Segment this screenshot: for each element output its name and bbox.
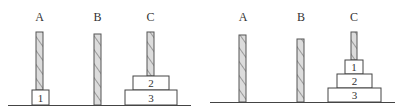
- svg-text:3: 3: [148, 92, 154, 104]
- peg-b: [297, 39, 304, 102]
- peg-c: [351, 32, 357, 60]
- peg-label-c: C: [350, 10, 358, 24]
- svg-text:1: 1: [38, 92, 44, 104]
- peg-label-b: B: [93, 10, 101, 24]
- peg-label-a: A: [35, 10, 44, 24]
- peg-label-b: B: [297, 10, 305, 24]
- peg-a: [36, 32, 43, 90]
- disk-3: 3: [125, 90, 177, 105]
- peg-b: [94, 34, 101, 105]
- peg-label-a: A: [239, 10, 248, 24]
- svg-text:2: 2: [148, 77, 154, 89]
- disk-3: 3: [328, 88, 381, 102]
- disk-2: 2: [133, 76, 169, 90]
- svg-text:3: 3: [352, 89, 358, 101]
- svg-text:2: 2: [352, 75, 358, 87]
- disk-1: 1: [345, 60, 363, 74]
- disk-2: 2: [337, 74, 372, 88]
- tower-of-hanoi-diagram: A B C 1 2 3 A B C 1: [0, 0, 404, 112]
- peg-c: [147, 32, 154, 76]
- peg-a: [239, 35, 246, 102]
- right-panel: A B C 1 2 3: [210, 10, 395, 103]
- disk-1: 1: [32, 90, 49, 105]
- peg-label-c: C: [146, 10, 154, 24]
- svg-text:1: 1: [351, 61, 357, 73]
- left-panel: A B C 1 2 3: [8, 10, 191, 106]
